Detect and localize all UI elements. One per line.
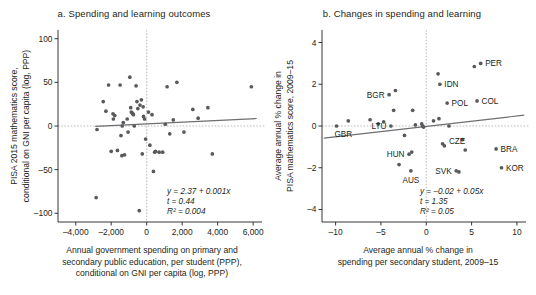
stats-r2: R² = 0.004 (167, 207, 206, 216)
data-point (109, 149, 113, 153)
country-label-col: COL (482, 97, 499, 106)
data-point (168, 132, 172, 136)
country-label-pol: POL (452, 99, 469, 108)
data-point (171, 118, 175, 122)
x-tick-label: 0 (144, 227, 149, 237)
stats-equation: y = 2.37 + 0.001x (166, 187, 231, 196)
data-point (500, 166, 504, 170)
y-tick-label: 50 (43, 77, 53, 87)
x-axis-title-line3: conditional on GNI per capita (log, PPP) (76, 268, 229, 278)
data-point (414, 123, 418, 127)
regression-line (95, 119, 256, 127)
y-axis-title: PISA 2015 mathematics score,conditional … (9, 50, 31, 203)
x-tick-label: –5 (376, 227, 386, 237)
data-point (443, 144, 447, 148)
data-point (94, 196, 98, 200)
data-point (116, 149, 120, 153)
country-label-svk: SVK (435, 167, 452, 176)
data-point (437, 117, 441, 121)
y-axis-title-line2: PISA mathematics score, 2009–15 (285, 60, 295, 192)
data-point (438, 82, 442, 86)
data-point (113, 114, 117, 118)
data-point (126, 130, 130, 134)
data-point (118, 83, 122, 87)
stats-tvalue: t = 1.35 (420, 197, 448, 206)
stats-r2: R² = 0.05 (420, 207, 454, 216)
data-point (148, 143, 152, 147)
data-points (335, 62, 504, 174)
data-point (409, 169, 413, 173)
data-point (121, 121, 125, 125)
panel-a-plot: –100–50050100–4,000–2,00002,0004,0006,00… (0, 0, 268, 295)
stats-equation: y = –0.02 + 0.05x (419, 187, 484, 196)
data-point (175, 81, 179, 85)
data-point (157, 150, 161, 154)
data-point (136, 107, 140, 111)
x-axis-title-line1: Average annual % change in (363, 245, 473, 255)
data-point (95, 128, 99, 132)
x-tick-label: 2,000 (172, 227, 193, 237)
data-point (129, 106, 133, 110)
data-point (479, 62, 483, 66)
country-label-bgr: BGR (367, 91, 385, 100)
country-label-aus: AUS (402, 176, 419, 185)
country-label-kor: KOR (506, 164, 524, 173)
regression-stats: y = –0.02 + 0.05xt = 1.35R² = 0.05 (419, 187, 484, 216)
data-point (403, 134, 407, 138)
country-label-cze: CZE (449, 137, 466, 146)
data-point (101, 100, 105, 104)
y-tick-label: –50 (39, 165, 53, 175)
data-point (123, 153, 127, 157)
data-point (128, 75, 132, 79)
data-point (411, 108, 415, 112)
data-point (410, 150, 414, 154)
data-point (387, 93, 391, 97)
data-point (161, 150, 165, 154)
regression-stats: y = 2.37 + 0.001xt = 0.44R² = 0.004 (166, 187, 231, 216)
data-point (250, 85, 254, 89)
data-point (138, 103, 142, 107)
data-point (140, 152, 144, 156)
data-point (432, 119, 436, 123)
x-axis-title: Average annual % change inspending per s… (338, 245, 499, 267)
data-point (143, 117, 147, 121)
panel-b-plot: –4–2024–10–50510GBRLTUBGRHUNAUSIDNPOLCZE… (268, 0, 536, 295)
data-point (196, 116, 200, 120)
panel-a: a. Spending and learning outcomes –100–5… (0, 0, 268, 295)
data-point (494, 147, 498, 151)
data-point (120, 124, 124, 128)
data-point (447, 124, 451, 128)
x-tick-label: –2,000 (98, 227, 124, 237)
country-label-idn: IDN (444, 80, 458, 89)
data-point (335, 124, 339, 128)
data-point (125, 117, 129, 121)
x-tick-label: 6,000 (243, 227, 264, 237)
x-ticks: –4,000–2,00002,0004,0006,000 (63, 222, 264, 237)
x-axis-title: Annual government spending on primary an… (62, 245, 242, 278)
data-point (107, 83, 111, 87)
x-axis-title-line2: secondary public education, per student … (62, 257, 242, 267)
data-point (394, 89, 398, 93)
x-tick-label: –10 (329, 227, 343, 237)
data-point (140, 98, 144, 102)
country-labels: GBRLTUBGRHUNAUSIDNPOLCZESVKPERCOLBRAKOR (335, 59, 524, 184)
figure-root: a. Spending and learning outcomes –100–5… (0, 0, 536, 295)
data-point (210, 152, 214, 156)
data-point (119, 134, 123, 138)
y-tick-label: 2 (312, 79, 317, 89)
data-point (135, 100, 139, 104)
data-point (445, 101, 449, 105)
y-tick-label: –100 (34, 208, 53, 218)
country-label-per: PER (485, 59, 502, 68)
y-axis-title: Average annual % change inPISA mathemati… (273, 60, 295, 192)
data-point (397, 163, 401, 167)
y-ticks: –4–2024 (307, 38, 322, 215)
x-tick-label: 5 (469, 227, 474, 237)
y-tick-label: 4 (312, 38, 317, 48)
data-point (154, 149, 158, 153)
panel-b: b. Changes in spending and learning –4–2… (268, 0, 536, 295)
reference-lines (58, 30, 266, 222)
stats-tvalue: t = 0.44 (167, 197, 195, 206)
data-point (463, 148, 467, 152)
x-ticks: –10–50510 (329, 222, 522, 237)
